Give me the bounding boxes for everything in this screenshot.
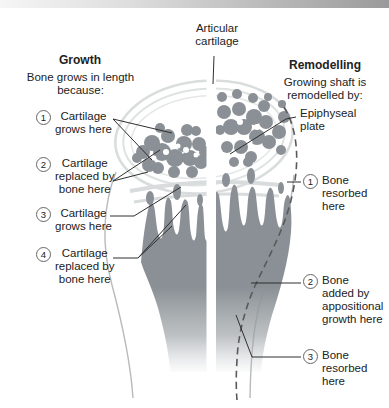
growth-item-1: 1 Cartilage grows here (36, 110, 112, 136)
remodelling-item-2-label: Bone added by appositional growth here (322, 274, 383, 326)
growth-title: Growth (30, 54, 130, 67)
remodelling-item-1-label: Bone resorbed here (322, 174, 367, 213)
growth-item-2-label: Cartilage replaced by bone here (55, 157, 114, 196)
number-badge: 1 (36, 110, 51, 125)
center-divider (207, 76, 217, 408)
remodelling-item-3-label: Bone resorbed here (322, 349, 367, 388)
number-badge: 1 (303, 174, 318, 189)
number-badge: 4 (36, 247, 51, 262)
growth-subtitle: Bone grows in length because: (8, 71, 153, 97)
growth-item-1-label: Cartilage grows here (55, 110, 112, 136)
articular-cartilage-label: Articular cartilage (178, 22, 256, 48)
growth-item-4: 4 Cartilage replaced by bone here (36, 247, 114, 286)
remodelling-title: Remodelling (265, 59, 385, 72)
number-badge: 2 (36, 157, 51, 172)
remodelling-item-1: 1 Bone resorbed here (303, 174, 367, 213)
number-badge: 2 (303, 274, 318, 289)
number-badge: 3 (36, 207, 51, 222)
growth-item-3-label: Cartilage grows here (55, 207, 112, 233)
growth-item-4-label: Cartilage replaced by bone here (55, 247, 114, 286)
growth-item-3: 3 Cartilage grows here (36, 207, 112, 233)
remodelling-item-3: 3 Bone resorbed here (303, 349, 367, 388)
epiphyseal-plate-label: Epiphyseal plate (300, 107, 356, 133)
number-badge: 3 (303, 349, 318, 364)
remodelling-item-2: 2 Bone added by appositional growth here (303, 274, 383, 326)
bone-shaft (141, 185, 291, 373)
bone-growth-diagram: Articular cartilage Growth Bone grows in… (0, 0, 389, 408)
remodelling-subtitle: Growing shaft is remodelled by: (265, 76, 385, 102)
growth-item-2: 2 Cartilage replaced by bone here (36, 157, 114, 196)
